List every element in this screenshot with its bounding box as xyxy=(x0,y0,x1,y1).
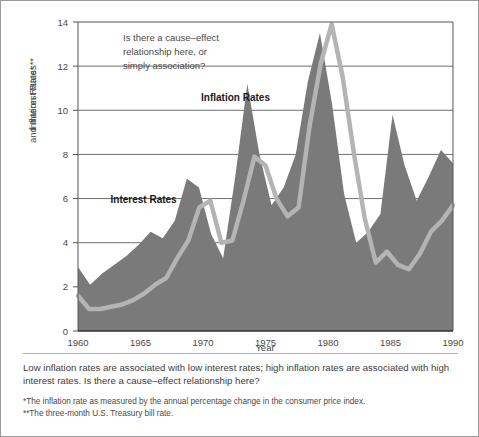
footnote-interest: **The three-month U.S. Treasury bill rat… xyxy=(23,408,458,420)
y-tick-label-14: 14 xyxy=(57,17,68,28)
x-tick-label-1960: 1960 xyxy=(67,337,88,348)
y-tick-label-6: 6 xyxy=(63,193,68,204)
footnote-inflation: *The inflation rate as measured by the a… xyxy=(23,396,458,408)
cause-effect-annotation: Is there a cause–effectrelationship here… xyxy=(123,32,219,71)
x-axis-title: Year xyxy=(255,342,274,353)
series-label-2: Interest Rates xyxy=(111,194,178,205)
x-tick-label-1980: 1980 xyxy=(317,337,338,348)
y-tick-label-2: 2 xyxy=(63,281,68,292)
annotation-line-1: Is there a cause–effect xyxy=(123,32,219,43)
y-tick-label-10: 10 xyxy=(57,105,68,116)
annotation-line-2: relationship here, or xyxy=(123,46,207,57)
y-axis-tick-marks xyxy=(73,22,78,331)
annotation-line-3: simply association? xyxy=(123,60,205,71)
caption-divider xyxy=(23,353,458,354)
y-tick-label-8: 8 xyxy=(63,149,68,160)
y-tick-label-12: 12 xyxy=(57,61,68,72)
x-tick-label-1965: 1965 xyxy=(130,337,151,348)
series-label-1: Inflation Rates xyxy=(201,92,270,103)
y-axis-title-line2: and Interest Rates** xyxy=(27,58,38,143)
rates-area-chart: 02468101214 1960196519701975198019851990… xyxy=(1,1,479,353)
x-tick-label-1970: 1970 xyxy=(192,337,213,348)
x-tick-label-1985: 1985 xyxy=(380,337,401,348)
caption-block: Low inflation rates are associated with … xyxy=(1,353,479,437)
y-axis-tick-labels: 02468101214 xyxy=(57,17,68,337)
x-tick-label-1990: 1990 xyxy=(442,337,463,348)
figure-panel: 02468101214 1960196519701975198019851990… xyxy=(0,0,479,437)
y-tick-label-0: 0 xyxy=(63,326,68,337)
chart-canvas: 02468101214 1960196519701975198019851990… xyxy=(1,1,479,353)
caption-main-text: Low inflation rates are associated with … xyxy=(23,361,458,387)
y-tick-label-4: 4 xyxy=(63,237,68,248)
